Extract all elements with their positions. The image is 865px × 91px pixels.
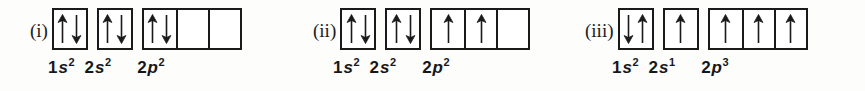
shell-set	[52, 8, 242, 50]
orbital-labels-row: 1s22s12p3	[612, 56, 729, 78]
shell-set	[340, 8, 530, 50]
orbital-box-run-2s	[663, 8, 699, 50]
orbital-box-run-1s	[340, 8, 376, 50]
orbital-box-filled	[54, 10, 86, 48]
spin-up-arrow-icon	[719, 14, 732, 44]
orbital-box-filled	[774, 10, 806, 48]
orbital-principal-number: 2	[701, 58, 710, 77]
orbital-box-empty	[176, 10, 208, 48]
orbital-subshell-letter: s	[342, 58, 352, 77]
spin-down-arrow-icon	[359, 14, 372, 44]
spin-arrow-group	[719, 10, 732, 48]
spin-down-arrow-icon	[622, 14, 635, 44]
orbital-electron-count: 1	[669, 56, 676, 68]
orbital-electron-count: 2	[105, 56, 112, 68]
orbital-label-2p: 2p2	[422, 56, 449, 78]
orbital-electron-count: 2	[632, 56, 639, 68]
orbital-electron-count: 2	[353, 56, 360, 68]
orbital-principal-number: 2	[85, 58, 94, 77]
spin-arrow-group	[674, 10, 687, 48]
orbital-label-1s: 1s2	[333, 56, 360, 78]
orbital-box-run-2p	[708, 8, 808, 50]
orbital-subshell-letter: s	[379, 58, 389, 77]
spin-arrow-group	[442, 10, 455, 48]
orbital-label-2p: 2p3	[701, 56, 728, 78]
spin-up-arrow-icon	[752, 14, 765, 44]
orbital-label-1s: 1s2	[48, 56, 75, 78]
orbital-subshell-letter: s	[658, 58, 668, 77]
spin-arrow-group	[345, 10, 372, 48]
orbital-boxes-row: (iii)	[585, 8, 808, 50]
orbital-labels-row: 1s22s22p2	[48, 56, 165, 78]
spin-up-arrow-icon	[442, 14, 455, 44]
spin-arrow-group	[56, 10, 83, 48]
spin-down-arrow-icon	[160, 14, 173, 44]
orbital-box-filled	[620, 10, 652, 48]
orbital-box-filled	[464, 10, 496, 48]
orbital-boxes-row: (i)	[30, 8, 242, 50]
orbital-box-filled	[710, 10, 742, 48]
orbital-box-run-1s	[618, 8, 654, 50]
orbital-subshell-letter: p	[432, 58, 443, 77]
orbital-box-empty	[496, 10, 528, 48]
orbital-box-run-2p	[430, 8, 530, 50]
orbital-diagram-canvas: (i)1s22s22p2(ii)1s22s22p2(iii)1s22s12p3	[0, 0, 865, 91]
orbital-box-filled	[742, 10, 774, 48]
orbital-electron-count: 2	[68, 56, 75, 68]
orbital-label-2s: 2s1	[649, 56, 676, 78]
spin-up-arrow-icon	[101, 14, 114, 44]
group-roman-numeral: (ii)	[313, 8, 340, 40]
orbital-box-filled	[99, 10, 131, 48]
orbital-electron-count: 2	[158, 56, 165, 68]
spin-down-arrow-icon	[115, 14, 128, 44]
spin-up-arrow-icon	[784, 14, 797, 44]
orbital-box-filled	[144, 10, 176, 48]
spin-up-arrow-icon	[636, 14, 649, 44]
orbital-electron-count: 3	[722, 56, 729, 68]
orbital-subshell-letter: p	[711, 58, 722, 77]
orbital-principal-number: 2	[370, 58, 379, 77]
spin-arrow-group	[390, 10, 417, 48]
orbital-label-2p: 2p2	[137, 56, 164, 78]
orbital-box-filled	[432, 10, 464, 48]
group-roman-numeral: (i)	[30, 8, 52, 40]
spin-arrow-group	[475, 10, 488, 48]
spin-down-arrow-icon	[70, 14, 83, 44]
spin-up-arrow-icon	[390, 14, 403, 44]
orbital-box-filled	[665, 10, 697, 48]
orbital-box-filled	[342, 10, 374, 48]
orbital-principal-number: 2	[137, 58, 146, 77]
orbital-box-run-2s	[385, 8, 421, 50]
orbital-label-1s: 1s2	[612, 56, 639, 78]
spin-up-arrow-icon	[475, 14, 488, 44]
spin-arrow-group	[146, 10, 173, 48]
orbital-subshell-letter: s	[621, 58, 631, 77]
orbital-subshell-letter: s	[94, 58, 104, 77]
spin-arrow-group	[752, 10, 765, 48]
orbital-principal-number: 2	[649, 58, 658, 77]
orbital-label-2s: 2s2	[370, 56, 397, 78]
spin-arrow-group	[784, 10, 797, 48]
spin-up-arrow-icon	[56, 14, 69, 44]
orbital-box-filled	[387, 10, 419, 48]
orbital-box-run-1s	[52, 8, 88, 50]
orbital-principal-number: 2	[422, 58, 431, 77]
spin-arrow-group	[622, 10, 649, 48]
orbital-subshell-letter: s	[57, 58, 67, 77]
spin-up-arrow-icon	[674, 14, 687, 44]
orbital-boxes-row: (ii)	[313, 8, 530, 50]
spin-up-arrow-icon	[146, 14, 159, 44]
orbital-electron-count: 2	[390, 56, 397, 68]
orbital-subshell-letter: p	[147, 58, 158, 77]
spin-down-arrow-icon	[404, 14, 417, 44]
orbital-box-run-2s	[97, 8, 133, 50]
orbital-label-2s: 2s2	[85, 56, 112, 78]
spin-arrow-group	[101, 10, 128, 48]
orbital-box-empty	[208, 10, 240, 48]
group-roman-numeral: (iii)	[585, 8, 618, 40]
orbital-box-run-2p	[142, 8, 242, 50]
orbital-electron-count: 2	[443, 56, 450, 68]
spin-up-arrow-icon	[345, 14, 358, 44]
orbital-labels-row: 1s22s22p2	[333, 56, 450, 78]
shell-set	[618, 8, 808, 50]
